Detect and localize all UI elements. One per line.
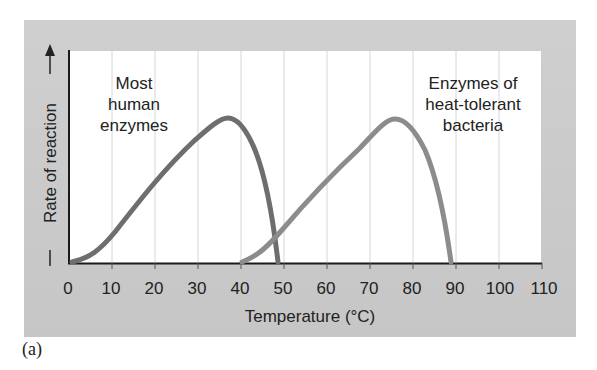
y-axis-label: Rate of reaction (41, 103, 60, 223)
tick-label-20: 20 (145, 279, 164, 298)
y-axis-label-group: Rate of reaction (41, 44, 60, 266)
annotation-bacteria-line2: heat-tolerant (425, 95, 521, 114)
tick-label-60: 60 (317, 279, 336, 298)
figure-caption: (a) (22, 339, 42, 360)
tick-label-40: 40 (231, 279, 250, 298)
tick-label-30: 30 (188, 279, 207, 298)
x-axis-label: Temperature (°C) (245, 307, 376, 326)
x-tick-labels: 0 10 20 30 40 50 60 70 80 90 100 110 (63, 279, 557, 298)
tick-label-110: 110 (530, 279, 557, 298)
tick-label-90: 90 (446, 279, 465, 298)
tick-label-70: 70 (360, 279, 379, 298)
tick-label-0: 0 (63, 279, 72, 298)
tick-label-80: 80 (403, 279, 422, 298)
annotation-bacteria-line1: Enzymes of (429, 74, 518, 93)
arrow-up-icon (45, 44, 55, 56)
annotation-human-line3: enzymes (100, 116, 168, 135)
annotation-bacteria-line3: bacteria (443, 116, 504, 135)
annotation-human-line2: human (108, 95, 160, 114)
annotation-human-line1: Most (116, 74, 153, 93)
tick-label-50: 50 (274, 279, 293, 298)
tick-label-100: 100 (486, 279, 514, 298)
chart-svg: 0 10 20 30 40 50 60 70 80 90 100 110 Tem… (0, 0, 597, 370)
tick-label-10: 10 (102, 279, 121, 298)
